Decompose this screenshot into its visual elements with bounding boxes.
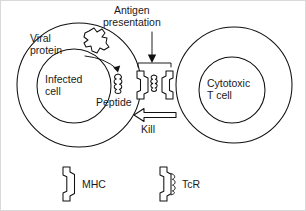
peptide-group: Peptide [96,74,132,108]
tcr-squiggle-icon [171,174,175,195]
antigen-presentation-arrow-head-icon [148,55,156,64]
cytotoxic-tcell-label-line1: Cytotoxic [207,77,250,89]
kill-label: Kill [141,123,155,135]
peptide-label: Peptide [96,96,132,108]
diagram-figure: Infected cell Viral protein Peptide Cyto… [0,0,306,211]
diagram-canvas: Infected cell Viral protein Peptide Cyto… [1,1,306,211]
cytotoxic-tcell-label-line2: T cell [207,89,232,101]
tcr-body-icon [160,167,171,201]
legend-item-tcr: TcR [160,167,201,201]
cytotoxic-tcell-group: Cytotoxic T cell [176,27,292,143]
peptide-squiggle-icon [114,74,122,94]
kill-arrow-group: Kill [134,109,176,136]
antigen-presentation-group: Antigen presentation [103,4,161,63]
viral-protein-label-line2: protein [30,44,62,56]
viral-protein-blob-icon [84,28,109,53]
legend-label-mhc: MHC [82,178,106,190]
tcr-molecule-icon [162,71,173,99]
viral-protein-label-line1: Viral [30,32,51,44]
presented-peptide-icon [151,75,158,91]
legend-item-mhc: MHC [63,167,106,201]
antigen-presentation-label-line2: presentation [103,16,161,28]
viral-protein-group: Viral protein [30,28,109,56]
mhc-groove-icon [63,167,75,201]
infected-cell-label-line2: cell [45,85,61,97]
mhc-molecule-icon [137,71,148,99]
curved-arrow-icon [85,56,117,69]
processing-curved-arrow-group [85,56,120,73]
kill-block-arrow-icon [134,109,176,122]
infected-cell-label-line1: Infected [45,73,83,85]
legend-label-tcr: TcR [182,178,201,190]
antigen-presentation-label-line1: Antigen [114,4,150,16]
legend-group: MHC TcR [63,167,201,201]
complex-bracket-icon [138,63,171,67]
mhc-peptide-tcr-complex-group [137,63,173,99]
